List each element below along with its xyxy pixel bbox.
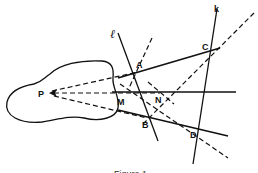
- dashed-line-P-B: [54, 96, 147, 118]
- label-N: N: [155, 95, 162, 105]
- geometry-diagram: P A B C D M N ℓ k Figure 1: [0, 0, 258, 173]
- dashed-line-B-C: [143, 12, 255, 124]
- dashed-line-P-A: [52, 72, 138, 91]
- region-outline: [7, 61, 119, 122]
- figure-caption: Figure 1: [114, 169, 147, 173]
- label-M: M: [117, 97, 125, 107]
- label-D: D: [190, 130, 197, 140]
- line-k: [193, 9, 217, 164]
- label-C: C: [202, 42, 209, 52]
- label-line-k: k: [214, 4, 220, 14]
- secant-B-D: [118, 110, 228, 136]
- label-P: P: [38, 89, 44, 99]
- label-B: B: [142, 120, 149, 130]
- label-A: A: [136, 60, 143, 70]
- dashed-line-M-D: [120, 84, 228, 158]
- label-line-l: ℓ: [110, 27, 115, 41]
